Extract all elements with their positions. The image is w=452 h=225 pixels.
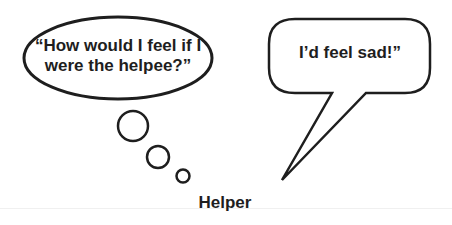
helper-caption: Helper — [175, 193, 275, 213]
speech-bubble-text: I’d feel sad!” — [272, 43, 428, 63]
thought-dot-medium — [147, 146, 169, 168]
thought-dot-small — [177, 170, 190, 183]
diagram-shapes — [0, 0, 452, 225]
thought-dot-large — [118, 111, 148, 141]
thought-bubble-text: “How would I feel if I were the helpee?” — [28, 36, 208, 76]
